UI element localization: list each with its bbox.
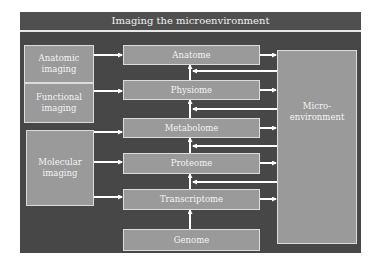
box-functional-imaging: Functionalimaging — [24, 83, 94, 123]
box-anatome: Anatome — [123, 45, 260, 65]
box-physiome: Physiome — [123, 80, 260, 100]
box-molecular-imaging: Molecularimaging — [26, 130, 94, 206]
box-anatomic-imaging: Anatomicimaging — [24, 45, 94, 83]
box-genome: Genome — [123, 229, 260, 251]
box-metabolome: Metabolome — [123, 118, 260, 138]
box-proteome: Proteome — [123, 153, 260, 174]
box-transcriptome: Transcriptome — [123, 189, 260, 210]
box-microenvironment: Micro-environment — [277, 50, 357, 244]
